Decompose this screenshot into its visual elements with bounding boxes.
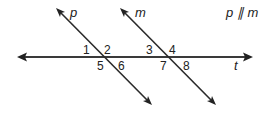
parallel-relation: p ∥ m [225, 5, 258, 20]
angle-5: 5 [97, 59, 104, 73]
label-m: m [135, 5, 146, 20]
label-p: p [69, 5, 77, 20]
angle-6: 6 [118, 59, 125, 73]
angle-3: 3 [146, 43, 153, 57]
line-t [17, 53, 253, 62]
angle-4: 4 [169, 43, 176, 57]
angle-8: 8 [183, 59, 190, 73]
angle-7: 7 [160, 59, 167, 73]
angle-1: 1 [83, 43, 90, 57]
parallel-lines-diagram: p m t p ∥ m 1 2 3 4 5 6 7 8 [0, 0, 266, 117]
label-t: t [234, 58, 239, 73]
angle-2: 2 [104, 43, 111, 57]
